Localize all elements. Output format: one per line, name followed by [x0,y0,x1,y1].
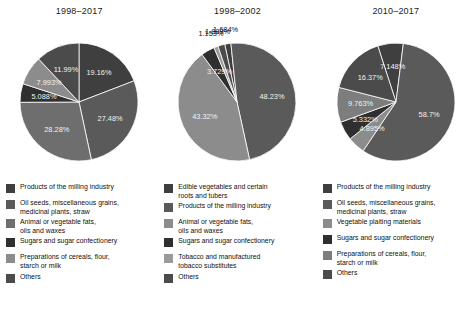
legend-item-label: Products of the milling industry [337,183,431,192]
legend-item[interactable]: Preparations of cereals, flour, starch o… [6,253,152,270]
legend-3: Products of the milling industryOil seed… [317,183,475,285]
legend-item-label: Preparations of cereals, flour, starch o… [337,250,427,267]
legend-item[interactable]: Animal or vegetable fats, oils and waxes [164,218,310,235]
legend-item-label: Animal or vegetable fats, oils and waxes [178,218,253,235]
legend-item-label: Oil seeds, miscellaneous grains, medicin… [337,199,436,216]
legend-item[interactable]: Sugars and sugar confectionery [323,234,469,248]
pie-svg: 19.16%27.48%28.28%5.088%7.993%11.99% [4,26,154,176]
slice-value-label: 9.763% [348,99,373,108]
legend-item-label: Sugars and sugar confectionery [337,234,434,243]
legend-item[interactable]: Oil seeds, miscellaneous grains, medicin… [323,199,469,216]
chart-panel-1998-2017: 1998–2017 19.16%27.48%28.28%5.088%7.993%… [0,0,158,326]
slice-value-label: 58.7% [418,110,439,119]
panel-row: 1998–2017 19.16%27.48%28.28%5.088%7.993%… [0,0,475,326]
pie-chart-3: 7.148%58.7%4.895%5.332%9.763%16.37% [317,26,475,176]
slice-value-label: 11.99% [54,65,79,74]
legend-item-label: Products of the milling industry [20,183,114,192]
legend-swatch-icon [6,184,15,193]
pie-svg: 7.148%58.7%4.895%5.332%9.763%16.37% [321,26,471,176]
slice-value-label: 19.16% [87,68,112,77]
legend-item-label: Sugars and sugar confectionery [178,237,274,246]
legend-item-label: Tobacco and manufactured tobacco substit… [178,253,260,270]
legend-item[interactable]: Others [164,273,310,287]
legend-1: Products of the milling industryOil seed… [0,183,158,289]
legend-2: Edible vegetables and certain roots and … [158,183,316,289]
legend-item-label: Animal or vegetable fats, oils and waxes [20,218,96,235]
slice-value-label: 5.332% [352,115,377,124]
chart-panel-2010-2017: 2010–2017 7.148%58.7%4.895%5.332%9.763%1… [317,0,475,326]
slice-value-label: 5.088% [32,92,57,101]
legend-swatch-icon [323,235,332,244]
slice-value-label: 28.28% [44,125,69,134]
legend-swatch-icon [323,219,332,228]
pie-chart-2: 1.684%48.23%43.32%3.729%1.153%1.889% [158,26,316,176]
chart-panel-1998-2002: 1998–2002 1.684%48.23%43.32%3.729%1.153%… [158,0,316,326]
legend-swatch-icon [164,254,173,263]
legend-swatch-icon [323,184,332,193]
slice-value-label: 43.32% [193,112,218,121]
legend-item[interactable]: Products of the milling industry [6,183,152,197]
legend-swatch-icon [164,238,173,247]
legend-item[interactable]: Animal or vegetable fats, oils and waxes [6,218,152,235]
slice-value-label: 16.37% [357,73,382,82]
slice-value-label: 4.895% [359,124,384,133]
legend-swatch-icon [323,200,332,209]
legend-item-label: Products of the milling industry [178,202,271,211]
legend-item-label: Vegetable plaiting materials [337,218,421,227]
legend-swatch-icon [164,219,173,228]
legend-item[interactable]: Others [6,273,152,287]
legend-item-label: Others [337,269,358,278]
chart-title: 1998–2002 [158,6,316,16]
legend-item[interactable]: Others [323,269,469,283]
legend-item[interactable]: Products of the milling industry [164,202,310,216]
legend-swatch-icon [164,184,173,193]
legend-item[interactable]: Oil seeds, miscellaneous grains, medicin… [6,199,152,216]
legend-swatch-icon [323,251,332,260]
legend-swatch-icon [164,203,173,212]
legend-item[interactable]: Preparations of cereals, flour, starch o… [323,250,469,267]
legend-item-label: Edible vegetables and certain roots and … [178,183,267,200]
pie-svg: 1.684%48.23%43.32%3.729%1.153%1.889% [162,26,312,176]
legend-item-label: Preparations of cereals, flour, starch o… [20,253,110,270]
legend-item-label: Oil seeds, miscellaneous grains, medicin… [20,199,119,216]
chart-title: 2010–2017 [317,6,475,16]
legend-swatch-icon [6,200,15,209]
legend-item-label: Others [178,273,198,282]
slice-value-label: 48.23% [260,92,285,101]
legend-item-label: Sugars and sugar confectionery [20,237,117,246]
legend-swatch-icon [323,270,332,279]
slice-value-label: 1.889% [206,27,231,36]
legend-item[interactable]: Vegetable plaiting materials [323,218,469,232]
legend-item[interactable]: Products of the milling industry [323,183,469,197]
pie-chart-figure: 1998–2017 19.16%27.48%28.28%5.088%7.993%… [0,0,475,326]
legend-swatch-icon [6,254,15,263]
pie-chart-1: 19.16%27.48%28.28%5.088%7.993%11.99% [0,26,158,176]
legend-swatch-icon [6,219,15,228]
legend-item[interactable]: Sugars and sugar confectionery [164,237,310,251]
legend-item[interactable]: Edible vegetables and certain roots and … [164,183,310,200]
slice-value-label: 7.993% [37,78,62,87]
chart-title: 1998–2017 [0,6,158,16]
legend-item-label: Others [20,273,41,282]
legend-swatch-icon [164,274,173,283]
legend-item[interactable]: Tobacco and manufactured tobacco substit… [164,253,310,270]
slice-value-label: 7.148% [380,62,405,71]
legend-swatch-icon [6,238,15,247]
slice-value-label: 3.729% [207,67,232,76]
legend-swatch-icon [6,274,15,283]
slice-value-label: 27.48% [98,114,123,123]
legend-item[interactable]: Sugars and sugar confectionery [6,237,152,251]
